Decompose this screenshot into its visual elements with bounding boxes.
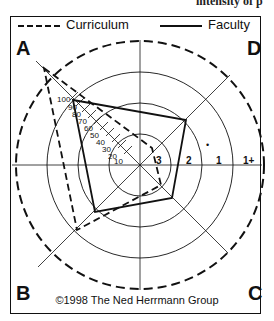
solid-line-swatch [160,25,202,27]
legend-curriculum: Curriculum [18,17,129,32]
ring-label-3: 3 [156,155,162,166]
tick-labels: 100 90 80 70 60 50 40 30 20 10 3 2 1 1+ … [0,0,274,321]
legend-faculty: Faculty [160,17,250,32]
legend-curriculum-label: Curriculum [66,17,129,32]
legend-faculty-label: Faculty [208,17,250,32]
tick-label: 10 [114,157,123,166]
copyright-notice: ©1998 The Ned Herrmann Group [0,294,274,306]
ring-label-1-plus: 1+ [243,155,254,166]
ring-label-1: 1 [216,155,222,166]
quadrant-label-d: D [247,38,261,58]
dashed-line-swatch [18,25,60,27]
ring-label-2: 2 [186,155,192,166]
marker-dot: • [206,140,209,150]
quadrant-label-a: A [16,38,30,58]
